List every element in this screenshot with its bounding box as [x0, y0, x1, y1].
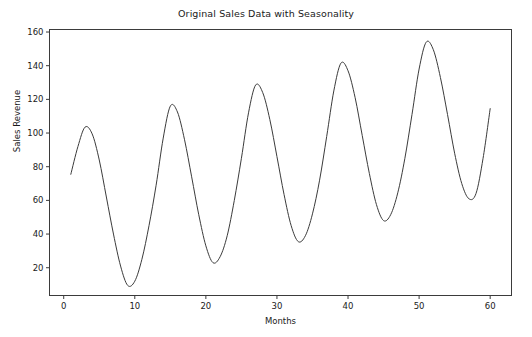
y-tick-label: 120	[27, 94, 43, 104]
x-tick-label: 10	[129, 301, 140, 311]
x-tick-label: 20	[200, 301, 211, 311]
y-tick-label: 160	[27, 27, 43, 37]
axes-spines	[50, 30, 512, 296]
x-tick-label: 60	[485, 301, 496, 311]
y-tick-label: 40	[33, 229, 44, 239]
y-axis-ticks: 20406080100120140160	[27, 27, 49, 273]
plot-frame	[50, 30, 512, 296]
x-tick-label: 50	[414, 301, 425, 311]
x-tick-label: 40	[343, 301, 354, 311]
series-line-0	[71, 41, 490, 286]
y-tick-label: 100	[27, 128, 43, 138]
y-tick-label: 140	[27, 61, 43, 71]
y-tick-label: 20	[33, 263, 44, 273]
chart-figure: Original Sales Data with Seasonality Sal…	[0, 0, 532, 337]
x-tick-label: 0	[61, 301, 66, 311]
y-tick-label: 80	[33, 162, 44, 172]
x-axis-ticks: 0102030405060	[61, 296, 496, 311]
plot-area: 20406080100120140160 0102030405060	[0, 0, 532, 337]
y-tick-label: 60	[33, 195, 44, 205]
x-tick-label: 30	[272, 301, 283, 311]
data-series-group	[71, 41, 490, 286]
